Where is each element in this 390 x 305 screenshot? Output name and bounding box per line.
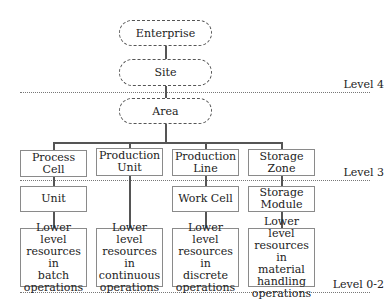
connector-site-area: [165, 86, 167, 98]
connector-bus-process-cell: [53, 142, 55, 150]
node-batch-resources: Lower level resources in batch operation…: [20, 228, 87, 287]
level-3-divider: [20, 180, 370, 181]
node-batch-resources-label: Lower level resources in batch operation…: [23, 222, 84, 294]
node-process-cell-label: Process Cell: [32, 152, 75, 176]
connector-enterprise-site: [165, 46, 167, 59]
node-storage-module: Storage Module: [248, 186, 315, 212]
level-0-2-label: Level 0-2: [333, 278, 384, 291]
connector-bus-storage-zone: [281, 142, 283, 149]
connector-bus-production-line: [205, 142, 207, 149]
node-storage-zone-label: Storage Zone: [260, 151, 304, 175]
node-unit: Unit: [20, 186, 87, 212]
node-enterprise: Enterprise: [119, 20, 212, 46]
node-unit-label: Unit: [41, 193, 65, 205]
node-continuous-resources-label: Lower level resources in continuous oper…: [99, 222, 160, 294]
connector-area-bus: [165, 124, 167, 143]
node-material-handling-resources-label: Lower level resources in material handli…: [251, 216, 312, 300]
node-process-cell: Process Cell: [20, 150, 87, 177]
node-work-cell-label: Work Cell: [178, 193, 233, 205]
node-production-line-label: Production Line: [175, 151, 236, 175]
node-production-unit-label: Production Unit: [99, 150, 160, 174]
node-work-cell: Work Cell: [172, 186, 239, 212]
level-4-label: Level 4: [343, 78, 384, 91]
level-4-divider: [20, 92, 370, 93]
node-continuous-resources: Lower level resources in continuous oper…: [96, 228, 163, 287]
connector-storage-zone-module: [281, 176, 283, 186]
connector-process-cell-unit: [53, 177, 55, 186]
connector-bus: [53, 142, 282, 144]
node-area: Area: [119, 98, 212, 124]
node-production-line: Production Line: [172, 149, 239, 176]
node-discrete-resources-label: Lower level resources in discrete operat…: [175, 222, 236, 294]
node-production-unit: Production Unit: [96, 148, 163, 176]
node-storage-module-label: Storage Module: [260, 187, 304, 211]
node-discrete-resources: Lower level resources in discrete operat…: [172, 228, 239, 287]
level-3-label: Level 3: [343, 166, 384, 179]
connector-production-line-work-cell: [205, 176, 207, 186]
node-site: Site: [119, 59, 212, 86]
node-storage-zone: Storage Zone: [248, 149, 315, 176]
node-material-handling-resources: Lower level resources in material handli…: [248, 228, 315, 287]
